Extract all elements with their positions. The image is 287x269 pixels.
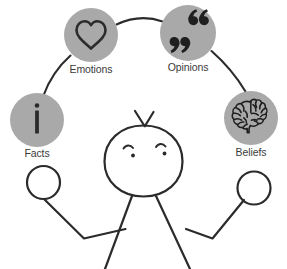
hand-ball-right xyxy=(238,172,271,205)
arm-right xyxy=(186,200,244,239)
opinions-label: Opinions xyxy=(168,61,209,73)
eye-left xyxy=(131,154,135,158)
emotions-circle-background xyxy=(64,8,118,62)
head-oval xyxy=(105,126,183,197)
beliefs-label: Beliefs xyxy=(236,146,267,158)
hand-ball-left xyxy=(27,166,60,199)
connector-opinions-to-beliefs xyxy=(212,51,246,92)
facts-label: Facts xyxy=(24,147,49,159)
eyebrow-left xyxy=(124,145,134,148)
illustration-canvas: Facts Emotions Opinions xyxy=(0,0,287,269)
diagram-scene: Facts Emotions Opinions xyxy=(0,0,287,269)
eyebrow-right xyxy=(156,144,166,147)
opinions-circle-background xyxy=(160,5,216,61)
antenna-hair-left xyxy=(135,111,145,126)
node-emotions[interactable]: Emotions xyxy=(64,8,118,75)
node-facts[interactable]: Facts xyxy=(10,93,64,159)
node-beliefs[interactable]: Beliefs xyxy=(224,91,278,158)
arm-left xyxy=(45,200,126,239)
connector-facts-to-emotions xyxy=(44,56,71,96)
leg-right xyxy=(156,196,190,269)
antenna-hair-right xyxy=(145,112,154,126)
emotions-label: Emotions xyxy=(70,63,113,75)
eye-right xyxy=(163,152,167,156)
connector-emotions-to-opinions xyxy=(117,18,163,24)
node-opinions[interactable]: Opinions xyxy=(160,5,216,73)
